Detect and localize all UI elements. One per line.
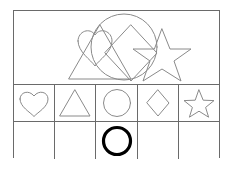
shape-cell-heart[interactable] xyxy=(14,85,55,121)
shape-cell-circle[interactable] xyxy=(96,85,137,121)
worksheet-frame xyxy=(13,10,220,158)
selected-circle-mark-icon xyxy=(101,125,133,157)
circle-icon xyxy=(101,88,133,118)
triangle-icon xyxy=(58,88,92,118)
answer-cell-heart[interactable] xyxy=(14,122,55,159)
answer-cell-triangle[interactable] xyxy=(55,122,96,159)
shape-key-row xyxy=(14,85,219,122)
overlapping-shapes-drawing xyxy=(14,11,219,83)
shape-cell-diamond[interactable] xyxy=(138,85,179,121)
heart-icon xyxy=(17,88,51,118)
shape-cell-star[interactable] xyxy=(179,85,219,121)
star-icon xyxy=(182,88,216,118)
answer-cell-diamond[interactable] xyxy=(138,122,179,159)
overlapping-shapes-panel xyxy=(14,11,219,85)
diamond-icon xyxy=(144,88,172,118)
diamond-shape-icon xyxy=(105,25,157,81)
answer-cell-star[interactable] xyxy=(179,122,219,159)
worksheet-canvas xyxy=(0,0,235,170)
answer-cell-circle[interactable] xyxy=(96,122,137,159)
shape-cell-triangle[interactable] xyxy=(55,85,96,121)
answer-row xyxy=(14,122,219,159)
